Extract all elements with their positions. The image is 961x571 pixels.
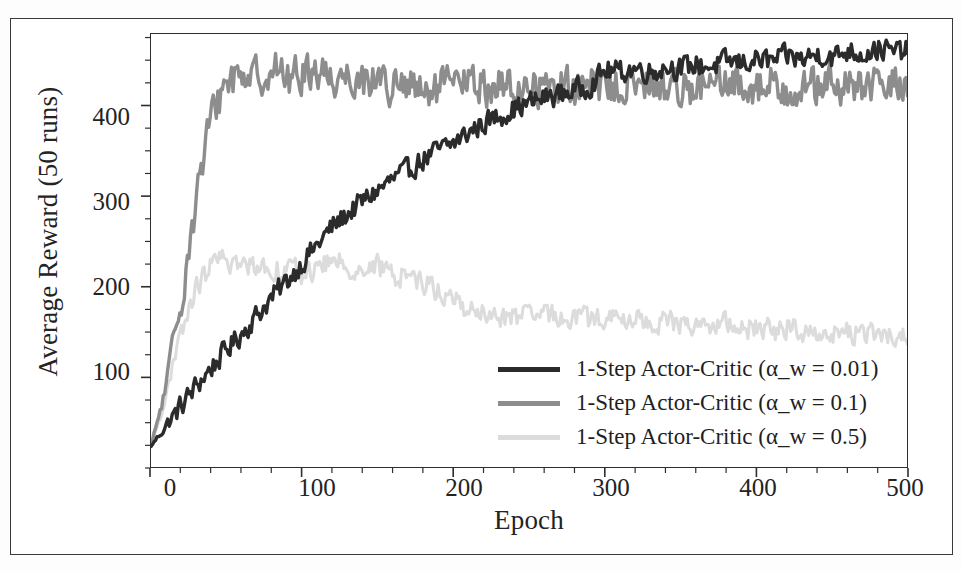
legend-item-alpha-001: 1-Step Actor-Critic (α_w = 0.01) <box>498 352 898 386</box>
y-tick-label-300: 300 <box>58 188 130 216</box>
legend-label-alpha-01: 1-Step Actor-Critic (α_w = 0.1) <box>576 390 867 416</box>
chart-legend: 1-Step Actor-Critic (α_w = 0.01) 1-Step … <box>498 352 898 454</box>
legend-item-alpha-01: 1-Step Actor-Critic (α_w = 0.1) <box>498 386 898 420</box>
x-tick-label-200: 200 <box>424 474 504 502</box>
x-tick-label-500: 500 <box>865 474 945 502</box>
y-tick-label-100: 100 <box>58 358 130 386</box>
y-tick-label-200: 200 <box>58 273 130 301</box>
x-axis-title: Epoch <box>150 505 908 536</box>
x-tick-label-100: 100 <box>277 474 357 502</box>
legend-swatch-alpha-01 <box>498 401 560 406</box>
y-tick-label-400: 400 <box>58 103 130 131</box>
legend-label-alpha-001: 1-Step Actor-Critic (α_w = 0.01) <box>576 356 878 382</box>
legend-swatch-alpha-001 <box>498 367 560 372</box>
legend-label-alpha-05: 1-Step Actor-Critic (α_w = 0.5) <box>576 424 867 450</box>
figure-root: Average Reward (50 runs) Epoch 400 300 2… <box>0 0 961 571</box>
legend-item-alpha-05: 1-Step Actor-Critic (α_w = 0.5) <box>498 420 898 454</box>
x-tick-label-400: 400 <box>718 474 798 502</box>
x-tick-label-300: 300 <box>571 474 651 502</box>
x-tick-label-0: 0 <box>130 474 210 502</box>
legend-swatch-alpha-05 <box>498 435 560 440</box>
